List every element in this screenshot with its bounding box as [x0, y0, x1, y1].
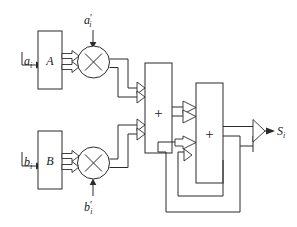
- coefficient-block-a-label: A: [45, 54, 54, 68]
- bus-adder1-to-adder2-lower: [172, 110, 196, 123]
- bus-mult-b-to-adder1-upper: [110, 119, 146, 159]
- output-s-i-label-group: Si: [277, 122, 285, 140]
- coefficient-block-b-label: B: [46, 154, 54, 168]
- output-s-i-subscript: i: [283, 131, 285, 140]
- bus-mult-b-to-adder1-lower: [110, 128, 146, 168]
- diagram-svg: A: [0, 0, 297, 227]
- adder-second-stage-label: +: [205, 126, 213, 142]
- bus-a-to-mult-lower: [62, 62, 79, 73]
- input-a-i-subscript: i: [30, 61, 32, 70]
- bus-a-to-mult-upper: [62, 51, 79, 62]
- input-b-i-label-group: bi: [24, 153, 32, 171]
- bus-b-to-mult-upper: [62, 151, 79, 162]
- bus-b-to-mult-lower: [62, 162, 79, 173]
- adder-first-stage-label: +: [154, 105, 162, 121]
- block-diagram-canvas: A: [0, 0, 297, 227]
- input-b-i-subscript: i: [30, 162, 32, 171]
- input-b-prime-i-wire: [90, 179, 97, 197]
- bus-adder2-output: [223, 120, 275, 147]
- input-a-prime-i-label-group: a′i: [84, 11, 91, 29]
- bus-mult-a-to-adder1-upper: [110, 59, 146, 94]
- input-b-prime-i-label-group: b′i: [84, 198, 92, 216]
- input-a-i-label-group: ai: [24, 52, 32, 70]
